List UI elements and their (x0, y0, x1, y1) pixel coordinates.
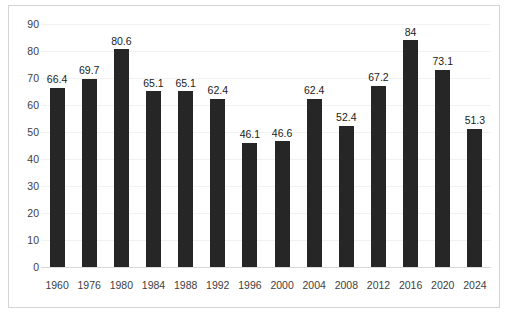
bar (82, 79, 97, 267)
bar-slot: 84 (395, 24, 427, 267)
y-axis-tick-label: 30 (17, 181, 39, 192)
bar (339, 126, 354, 267)
bar-series: 66.469.780.665.165.162.446.146.662.452.4… (41, 24, 491, 267)
bar-slot: 67.2 (362, 24, 394, 267)
bar-slot: 66.4 (41, 24, 73, 267)
bar (210, 99, 225, 267)
y-axis-tick-label: 80 (17, 46, 39, 57)
bar-value-label: 65.1 (143, 78, 163, 89)
bar-value-label: 65.1 (175, 78, 195, 89)
bar-slot: 73.1 (427, 24, 459, 267)
y-axis-tick-label: 40 (17, 154, 39, 165)
bar-value-label: 46.1 (240, 129, 260, 140)
bar (307, 99, 322, 267)
bar-value-label: 84 (405, 27, 417, 38)
x-axis-tick-label: 2008 (330, 277, 362, 293)
bar-slot: 69.7 (73, 24, 105, 267)
axis-baseline (41, 267, 491, 268)
chart-plot-wrapper: 9080706050403020100 66.469.780.665.165.1… (9, 6, 499, 307)
y-axis-tick-label: 60 (17, 100, 39, 111)
bar-slot: 65.1 (137, 24, 169, 267)
bar-value-label: 62.4 (304, 85, 324, 96)
bar (435, 70, 450, 267)
y-axis-tick-label: 10 (17, 235, 39, 246)
x-axis-tick-label: 1992 (202, 277, 234, 293)
bar-value-label: 69.7 (79, 65, 99, 76)
bar (242, 143, 257, 267)
plot-area: 66.469.780.665.165.162.446.146.662.452.4… (41, 24, 491, 267)
x-axis-tick-label: 1980 (105, 277, 137, 293)
bar (178, 91, 193, 267)
bar-slot: 80.6 (105, 24, 137, 267)
y-axis-tick-label: 70 (17, 73, 39, 84)
bar-slot: 62.4 (202, 24, 234, 267)
y-axis: 9080706050403020100 (17, 6, 39, 307)
bar-value-label: 66.4 (47, 74, 67, 85)
bar-slot: 46.1 (234, 24, 266, 267)
x-axis-tick-label: 2012 (362, 277, 394, 293)
bar-value-label: 80.6 (111, 36, 131, 47)
x-axis-tick-label: 1960 (41, 277, 73, 293)
bar-value-label: 73.1 (433, 56, 453, 67)
x-axis-tick-label: 2024 (459, 277, 491, 293)
bar (114, 49, 129, 267)
bar (146, 91, 161, 267)
y-axis-tick-label: 0 (17, 262, 39, 273)
bar (50, 88, 65, 267)
y-axis-tick-label: 20 (17, 208, 39, 219)
bar-value-label: 52.4 (336, 112, 356, 123)
bar-slot: 52.4 (330, 24, 362, 267)
bar-value-label: 51.3 (465, 115, 485, 126)
x-axis-tick-label: 2004 (298, 277, 330, 293)
x-axis-tick-label: 2000 (266, 277, 298, 293)
bar (275, 141, 290, 267)
x-axis-tick-label: 2016 (395, 277, 427, 293)
bar-slot: 65.1 (170, 24, 202, 267)
bar-value-label: 67.2 (368, 72, 388, 83)
x-axis-tick-label: 1988 (170, 277, 202, 293)
y-axis-tick-label: 90 (17, 19, 39, 30)
bar-slot: 46.6 (266, 24, 298, 267)
bar-slot: 62.4 (298, 24, 330, 267)
x-axis: 1960197619801984198819921996200020042008… (41, 277, 491, 293)
bar-value-label: 62.4 (208, 85, 228, 96)
bar-value-label: 46.6 (272, 128, 292, 139)
bar (403, 40, 418, 267)
bar-slot: 51.3 (459, 24, 491, 267)
x-axis-tick-label: 2020 (427, 277, 459, 293)
chart-container: 9080706050403020100 66.469.780.665.165.1… (8, 5, 500, 308)
x-axis-tick-label: 1984 (137, 277, 169, 293)
y-axis-tick-label: 50 (17, 127, 39, 138)
x-axis-tick-label: 1996 (234, 277, 266, 293)
x-axis-tick-label: 1976 (73, 277, 105, 293)
bar (467, 129, 482, 268)
bar (371, 86, 386, 267)
